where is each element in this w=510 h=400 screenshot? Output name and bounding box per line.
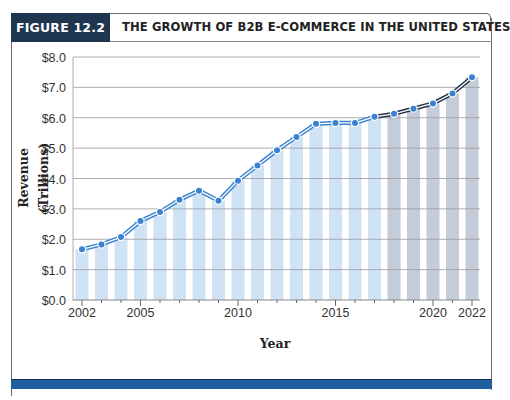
data-point-marker [117,234,124,241]
data-point-marker [156,208,163,215]
data-point-marker [234,177,241,184]
data-point-marker [371,113,378,120]
data-point-marker [254,162,261,169]
actual-bar [115,237,128,300]
actual-bar [232,181,245,300]
actual-bar [349,123,362,300]
actual-bar [76,249,89,300]
forecast-bar [388,114,401,300]
actual-bar [212,201,225,300]
actual-bar [368,117,381,300]
forecast-bar [446,93,459,300]
data-point-marker [176,196,183,203]
data-point-marker [137,217,144,224]
forecast-bar [407,109,420,300]
x-tick-label: 2002 [68,306,96,320]
data-point-marker [351,119,358,126]
x-tick-label: 2015 [322,306,350,320]
data-point-marker [449,90,456,97]
y-axis-label: Revenue (Trillions) [14,118,34,238]
forecast-bar [466,77,479,300]
actual-bar [193,191,206,300]
y-tick-label: $0.0 [42,294,66,308]
y-tick-label: $1.0 [42,264,66,278]
data-point-marker [332,119,339,126]
y-tick-label: $7.0 [42,81,66,95]
forecast-bar [427,103,440,300]
data-point-marker [390,110,397,117]
data-point-marker [273,147,280,154]
y-tick-label: $8.0 [42,51,66,65]
actual-bar [310,124,323,300]
actual-bar [290,137,303,300]
data-point-marker [312,120,319,127]
actual-bar [95,244,108,300]
y-tick-label: $6.0 [42,112,66,126]
data-point-marker [98,241,105,248]
x-axis-label: Year [250,336,300,351]
actual-bar [173,200,186,300]
x-tick-label: 2005 [127,306,155,320]
x-tick-label: 2020 [419,306,447,320]
data-point-marker [410,105,417,112]
data-point-marker [293,133,300,140]
actual-bar [329,123,342,300]
y-tick-label: $2.0 [42,233,66,247]
actual-bar [271,150,284,300]
data-point-marker [468,74,475,81]
data-point-marker [78,246,85,253]
data-point-marker [429,100,436,107]
x-tick-label: 2010 [224,306,252,320]
data-point-marker [195,187,202,194]
actual-bar [251,165,264,300]
data-point-marker [215,197,222,204]
bottom-band [11,379,492,389]
actual-bar [154,212,167,300]
x-tick-label: 2022 [458,306,486,320]
actual-bar [134,221,147,300]
